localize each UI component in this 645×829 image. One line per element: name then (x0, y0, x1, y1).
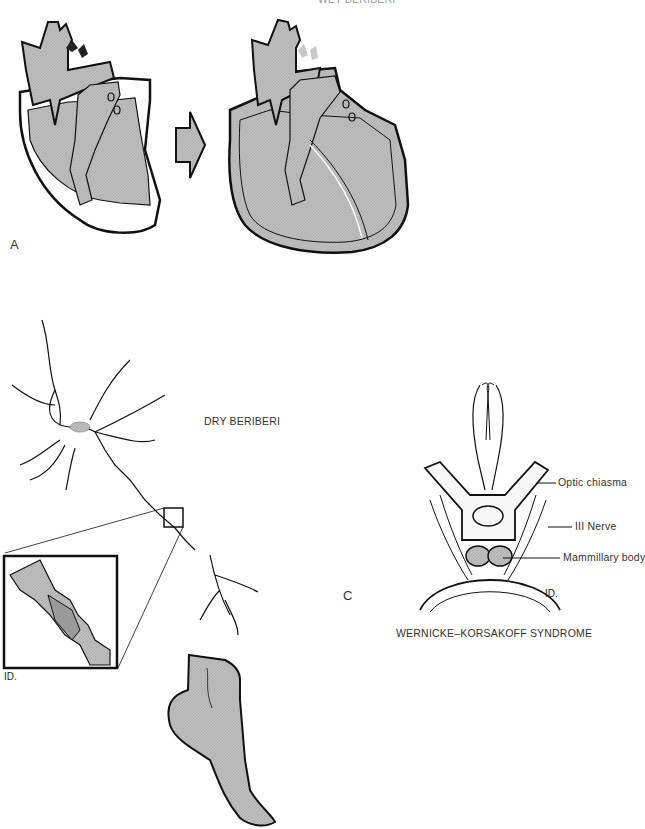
foot-with-shaded-area (168, 655, 275, 825)
label-iii-nerve: III Nerve (575, 520, 616, 532)
dilated-heart (229, 20, 408, 253)
wernicke-korsakoff-title: WERNICKE–KORSAKOFF SYNDROME (396, 627, 592, 639)
right-arrow-icon (176, 112, 205, 178)
label-mammillary-body: Mammillary body (563, 551, 645, 563)
panel-c-letter: C (343, 588, 352, 603)
dry-beriberi-title: DRY BERIBERI (204, 415, 280, 427)
wet-beriberi-title: WET BERIBERI (318, 0, 395, 5)
signature-b: ID. (4, 671, 17, 682)
signature-c: ID. (545, 588, 558, 599)
panel-a-letter: A (10, 237, 19, 252)
axon-degeneration-inset (4, 556, 117, 668)
brain-base (420, 383, 572, 612)
normal-heart (20, 22, 160, 233)
label-optic-chiasma: Optic chiasma (558, 476, 627, 488)
